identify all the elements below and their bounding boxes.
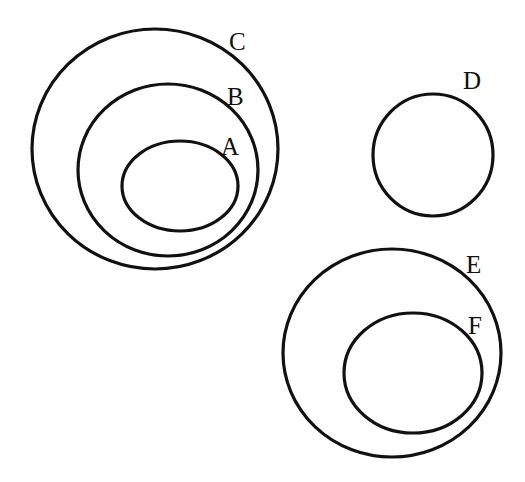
set-label-b: B	[227, 84, 244, 109]
set-label-e: E	[466, 252, 481, 277]
set-label-f: F	[468, 313, 482, 338]
set-d-ellipse	[373, 94, 493, 216]
diagram-shapes	[0, 0, 525, 482]
euler-diagram: C B A D E F	[0, 0, 525, 482]
set-c-ellipse	[32, 29, 278, 269]
set-label-d: D	[463, 68, 481, 93]
set-label-c: C	[229, 29, 246, 54]
set-e-ellipse	[283, 249, 501, 457]
set-f-ellipse	[344, 313, 482, 433]
set-label-a: A	[221, 134, 239, 159]
